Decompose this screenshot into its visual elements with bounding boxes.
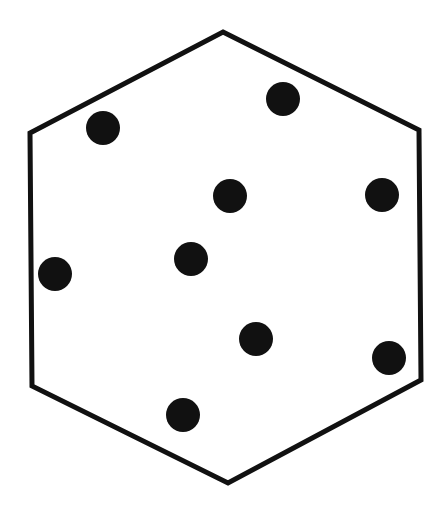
dot-6 xyxy=(38,257,72,291)
dot-1 xyxy=(86,111,120,145)
dot-9 xyxy=(166,398,200,432)
dot-3 xyxy=(213,179,247,213)
dot-2 xyxy=(266,82,300,116)
dot-7 xyxy=(239,322,273,356)
dot-8 xyxy=(372,341,406,375)
dot-5 xyxy=(174,242,208,276)
background xyxy=(0,0,443,508)
dot-4 xyxy=(365,178,399,212)
hexagon-dots-diagram xyxy=(0,0,443,508)
